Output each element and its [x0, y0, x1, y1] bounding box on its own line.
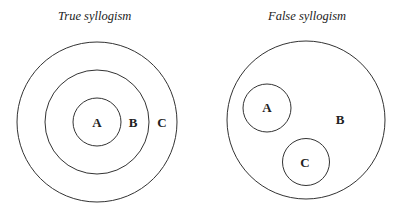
false-syllogism-diagram [227, 41, 385, 199]
label-a: A [92, 115, 102, 130]
label-a: A [262, 100, 272, 115]
syllogism-diagrams: A B C A B C [0, 0, 400, 217]
label-b: B [129, 115, 138, 130]
circle-b [227, 41, 385, 199]
label-b: B [336, 112, 345, 127]
label-c: C [300, 155, 309, 170]
label-c: C [157, 115, 166, 130]
